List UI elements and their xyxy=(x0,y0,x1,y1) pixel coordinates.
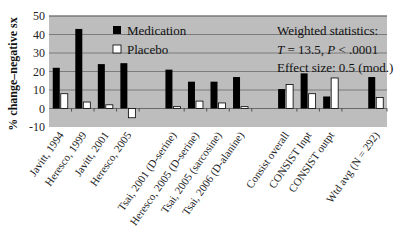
bar-medication xyxy=(98,64,105,108)
stats-annotation: Weighted statistics: T = 13.5, P < .0001… xyxy=(277,23,393,75)
bar-placebo xyxy=(173,107,180,109)
legend-swatch-placebo xyxy=(113,45,121,53)
y-tick-label: 40 xyxy=(33,28,45,42)
legend-label-placebo: Placebo xyxy=(127,42,168,57)
bar-placebo xyxy=(83,102,90,108)
bar-medication xyxy=(368,77,375,108)
legend-swatch-medication xyxy=(113,26,121,34)
stats-line-1: Weighted statistics: xyxy=(277,23,378,38)
bar-medication xyxy=(165,70,172,109)
bar-placebo xyxy=(61,94,68,109)
bar-chart: -1001020304050 Javitt, 1994Heresco, 1999… xyxy=(0,0,402,232)
stats-line-3: Effect size: 0.5 (mod.) xyxy=(277,60,393,75)
bar-placebo xyxy=(219,103,226,109)
y-axis-ticks: -1001020304050 xyxy=(29,9,45,134)
bar-placebo xyxy=(128,109,135,118)
bar-medication xyxy=(278,89,285,108)
y-tick-label: -10 xyxy=(29,120,45,134)
bar-medication xyxy=(120,63,127,108)
bar-placebo xyxy=(106,105,113,109)
bar-medication xyxy=(301,73,308,108)
bar-medication xyxy=(233,77,240,108)
y-tick-label: 20 xyxy=(33,65,45,79)
y-tick-label: 30 xyxy=(33,46,45,60)
bar-placebo xyxy=(241,107,248,109)
x-axis-labels: Javitt, 1994Heresco, 1999Javitt, 2001Her… xyxy=(27,129,383,228)
bar-medication xyxy=(53,68,60,109)
bar-medication xyxy=(75,29,82,109)
bar-placebo xyxy=(309,94,316,109)
y-tick-label: 10 xyxy=(33,83,45,97)
bar-medication xyxy=(323,96,330,108)
bar-placebo xyxy=(376,97,383,108)
y-tick-label: 50 xyxy=(33,9,45,23)
bar-placebo xyxy=(196,101,203,108)
bar-placebo xyxy=(286,84,293,108)
y-tick-label: 0 xyxy=(39,102,45,116)
bar-medication xyxy=(188,82,195,109)
legend-label-medication: Medication xyxy=(127,23,187,38)
bar-medication xyxy=(211,82,218,109)
bar-placebo xyxy=(331,78,338,109)
stats-line-2: T = 13.5, P < .0001 xyxy=(277,42,378,57)
